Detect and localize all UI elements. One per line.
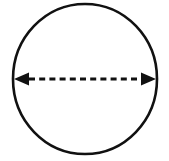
circle-diameter-diagram — [0, 0, 169, 161]
diagram-canvas — [0, 0, 169, 161]
